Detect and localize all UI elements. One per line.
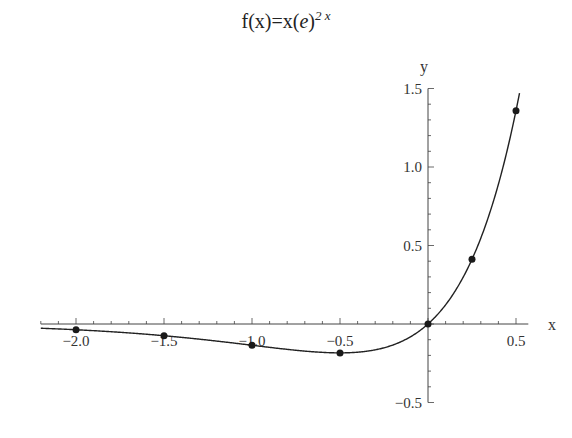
x-axis-label: x — [548, 316, 556, 333]
y-axis-label: y — [420, 58, 428, 76]
data-point — [249, 342, 256, 349]
function-curve — [41, 93, 520, 353]
data-point — [425, 321, 432, 328]
y-tick-label: −0.5 — [395, 395, 422, 411]
data-point — [513, 107, 520, 114]
plot-area: −2.0−1.5−1.0−0.50.5−0.50.51.01.5xy — [0, 0, 572, 438]
data-point — [161, 332, 168, 339]
x-tick-label: −0.5 — [326, 333, 353, 349]
y-tick-label: 1.0 — [403, 159, 422, 175]
x-tick-label: −2.0 — [62, 333, 89, 349]
y-tick-label: 0.5 — [403, 238, 422, 254]
y-tick-label: 1.5 — [403, 81, 422, 97]
data-point — [337, 349, 344, 356]
data-point — [73, 326, 80, 333]
data-point — [469, 256, 476, 263]
x-tick-label: 0.5 — [507, 333, 526, 349]
